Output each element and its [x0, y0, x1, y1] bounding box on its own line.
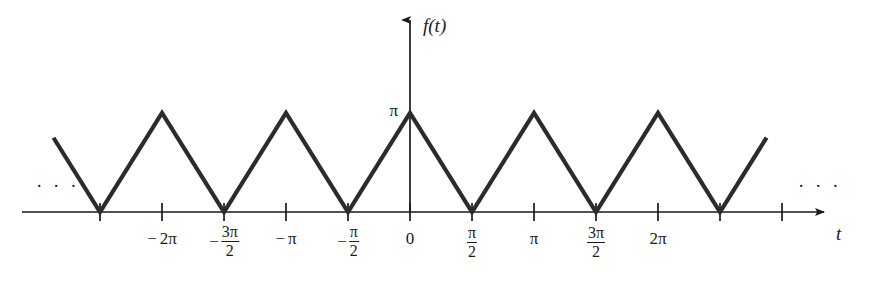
- tick-label-sign: −: [147, 230, 157, 247]
- x-tick-label-2pi: 2π: [649, 230, 666, 247]
- x-tick-label-pi: π: [530, 230, 539, 247]
- tick-label-text: π: [530, 230, 539, 247]
- fraction-numerator: π: [467, 225, 477, 243]
- tick-label-text: π: [288, 230, 297, 247]
- ellipsis-right: · · ·: [798, 175, 841, 197]
- tick-label-text: 2π: [160, 230, 177, 247]
- fraction-numerator: 3π: [221, 224, 239, 242]
- tick-label-fraction: π2: [467, 225, 477, 261]
- tick-label-fraction: π2: [349, 224, 359, 260]
- x-tick-label-neg-3pi-2: −3π2: [209, 224, 239, 260]
- tick-label-sign: −: [275, 230, 285, 247]
- tick-label-text: 2π: [649, 230, 666, 247]
- x-tick-label-neg-pi-2: −π2: [337, 224, 359, 260]
- ellipsis-left: · · ·: [36, 175, 79, 197]
- y-value-label-pi: π: [372, 102, 398, 119]
- y-axis-label: f(t): [423, 16, 446, 35]
- fraction-denominator: 2: [468, 243, 476, 260]
- tick-label-sign: −: [337, 233, 347, 250]
- tick-label-text: 0: [406, 230, 415, 247]
- fraction-denominator: 2: [226, 242, 234, 259]
- tick-label-fraction: 3π2: [587, 225, 605, 261]
- x-tick-label-zero: 0: [406, 230, 415, 247]
- plot-canvas: [0, 0, 873, 282]
- tick-label-fraction: 3π2: [221, 224, 239, 260]
- fraction-numerator: π: [349, 224, 359, 242]
- fraction-denominator: 2: [592, 243, 600, 260]
- x-tick-label-3pi-2: 3π2: [587, 224, 605, 261]
- figure-triangular-wave: f(t) t π · · · · · · −2π−3π2−π−π20π2π3π2…: [0, 0, 873, 282]
- tick-label-sign: −: [209, 233, 219, 250]
- fraction-denominator: 2: [350, 242, 358, 259]
- fraction-numerator: 3π: [587, 225, 605, 243]
- x-axis-label: t: [836, 224, 841, 243]
- x-tick-label-pi-2: π2: [467, 224, 477, 261]
- x-tick-label-neg-pi: −π: [275, 230, 296, 247]
- x-tick-label-neg-2pi: −2π: [147, 230, 177, 247]
